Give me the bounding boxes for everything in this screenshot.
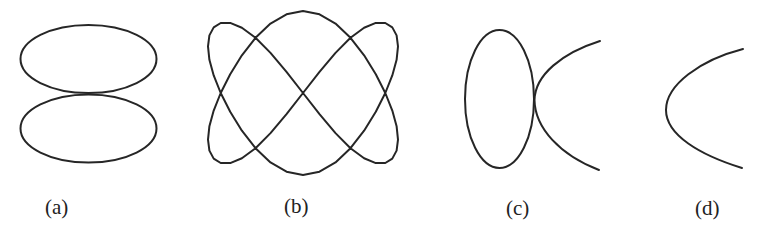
panel-a-top-ellipse bbox=[21, 25, 157, 93]
panel-c-label: (c) bbox=[506, 198, 529, 219]
panel-b-lissajous-curve bbox=[208, 11, 398, 175]
panel-c-ellipse bbox=[465, 30, 534, 168]
panel-c-drawing bbox=[465, 30, 600, 170]
panel-d-open-curve bbox=[666, 49, 743, 168]
panel-c-open-curve bbox=[535, 41, 601, 170]
panel-a-label: (a) bbox=[45, 197, 68, 218]
panel-d-drawing bbox=[666, 49, 743, 168]
panel-a-drawing bbox=[21, 25, 157, 163]
panel-a-bottom-ellipse bbox=[21, 95, 157, 163]
figure-canvas bbox=[0, 0, 760, 232]
panel-b-label: (b) bbox=[284, 196, 309, 217]
panel-d-label: (d) bbox=[695, 198, 720, 219]
panel-b-drawing bbox=[208, 11, 398, 175]
